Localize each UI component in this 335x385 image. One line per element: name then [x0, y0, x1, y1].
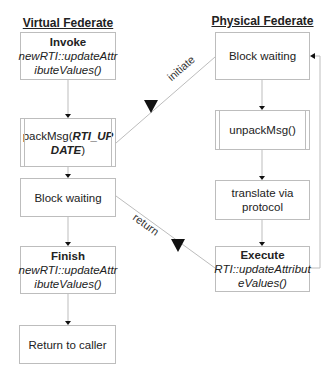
loop-back-line — [310, 56, 320, 268]
finish-title: Finish — [51, 249, 85, 263]
execute-line1: RTI::updateAttribut — [214, 262, 310, 276]
return-line — [116, 196, 215, 268]
virtual-federate-title: Virtual Federate — [18, 16, 118, 30]
translate-node: translate via protocol — [215, 180, 310, 220]
translate-line1: translate via — [231, 186, 293, 200]
invoke-line1: newRTI::updateAttr — [19, 49, 118, 63]
return-to-caller-node: Return to caller — [19, 325, 116, 364]
execute-line2: eValues() — [238, 276, 287, 290]
translate-line2: protocol — [242, 200, 283, 214]
physical-block-waiting-node: Block waiting — [215, 32, 310, 80]
invoke-line2: ibuteValues() — [34, 63, 101, 77]
physical-block-waiting-label: Block waiting — [229, 49, 296, 63]
unpack-msg-label: unpackMsg() — [229, 123, 295, 137]
pack-msg-line1: packMsg(RTI_UP — [23, 129, 114, 143]
virtual-block-waiting-label: Block waiting — [34, 191, 101, 205]
initiate-triangle — [144, 100, 158, 113]
invoke-title: Invoke — [50, 35, 86, 49]
pack-msg-node: packMsg(RTI_UP DATE) — [20, 118, 116, 167]
arrowhead-loop — [310, 53, 315, 59]
return-to-caller-label: Return to caller — [29, 338, 107, 352]
virtual-block-waiting-node: Block waiting — [20, 178, 116, 217]
finish-node: Finish newRTI::updateAttr ibuteValues() — [20, 246, 116, 294]
initiate-line — [116, 57, 215, 143]
execute-title: Execute — [240, 248, 284, 262]
pack-msg-line2: DATE) — [51, 143, 85, 157]
unpack-msg-node: unpackMsg() — [215, 110, 310, 150]
finish-line1: newRTI::updateAttr — [19, 263, 118, 277]
invoke-node: Invoke newRTI::updateAttr ibuteValues() — [20, 32, 116, 80]
physical-federate-title: Physical Federate — [210, 14, 315, 28]
return-triangle — [171, 239, 185, 252]
finish-line2: ibuteValues() — [34, 277, 101, 291]
execute-node: Execute RTI::updateAttribut eValues() — [215, 246, 310, 292]
